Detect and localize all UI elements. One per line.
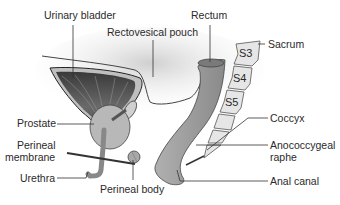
label-anococcygeal-raphe-line2: raphe — [270, 152, 297, 163]
leader-urethra — [57, 172, 88, 178]
label-prostate: Prostate — [17, 118, 56, 129]
prostate-gland — [90, 105, 130, 149]
label-anal-canal: Anal canal — [270, 176, 319, 187]
leader-anal-canal — [177, 170, 268, 181]
label-perineal-body: Perineal body — [100, 184, 164, 195]
vertebra-s3-label: S3 — [239, 47, 252, 59]
label-sacrum: Sacrum — [268, 39, 304, 50]
label-perineal-membrane-line1: Perineal — [17, 140, 55, 151]
label-anococcygeal-raphe-line1: Anococcygeal — [270, 140, 335, 151]
label-urinary-bladder: Urinary bladder — [44, 10, 116, 21]
label-coccyx: Coccyx — [270, 113, 304, 124]
anococcygeal-raphe-structure — [186, 156, 204, 165]
vertebra-s5-label: S5 — [225, 96, 238, 108]
label-rectovesical-pouch: Rectovesical pouch — [107, 27, 198, 38]
perineal-body-structure — [128, 151, 140, 163]
vertebra-s4-label: S4 — [233, 72, 246, 84]
pelvis-diagram: Urinary bladder Rectovesical pouch Rectu… — [0, 0, 340, 205]
label-rectum: Rectum — [191, 10, 227, 21]
label-perineal-membrane-line2: membrane — [5, 152, 55, 163]
label-urethra: Urethra — [20, 173, 55, 184]
